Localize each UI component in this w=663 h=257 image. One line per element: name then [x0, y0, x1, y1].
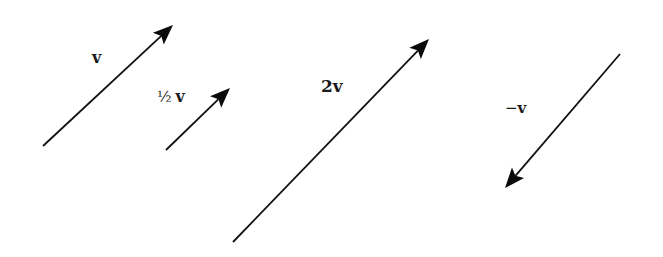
- arrowhead-icon: [505, 168, 524, 188]
- label-neg-symbol: v: [518, 99, 527, 117]
- label-half-fraction: ½: [157, 88, 172, 106]
- label-v-text: v: [92, 48, 101, 67]
- vector-two_v: [233, 39, 429, 242]
- label-half-v: ½v: [157, 89, 185, 105]
- label-v: v: [92, 50, 101, 66]
- vector-v: [43, 25, 173, 146]
- label-half-symbol: v: [176, 87, 185, 106]
- label-neg-sign: −: [505, 99, 518, 117]
- label-2v-text: 2v: [321, 76, 343, 96]
- vector-shaft: [43, 36, 161, 146]
- vector-shaft: [515, 54, 620, 176]
- label-2v: 2v: [321, 78, 343, 95]
- vector-shaft: [166, 99, 219, 150]
- label-neg-v: −v: [505, 101, 526, 116]
- vector-neg_v: [505, 54, 620, 188]
- vector-scaling-diagram: v ½v 2v −v: [0, 0, 663, 257]
- diagram-svg: [0, 0, 663, 257]
